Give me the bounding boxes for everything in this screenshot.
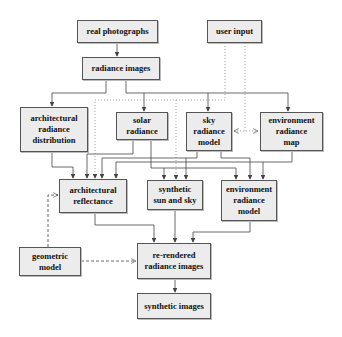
- node-environment-radiance-map: environment radiance map: [260, 112, 323, 151]
- node-environment-radiance-model: environment radiance model: [221, 180, 277, 221]
- node-architectural-reflectance: architectural reflectance: [59, 179, 127, 213]
- node-synthetic-images: synthetic images: [137, 293, 211, 319]
- node-user-input: user input: [207, 20, 262, 43]
- flow-diagram: real photographs user input radiance ima…: [0, 0, 342, 337]
- node-sky-radiance-model: sky radiance model: [186, 112, 232, 151]
- node-geometric-model: geometric model: [19, 247, 81, 276]
- diagram-edges: [0, 0, 342, 337]
- node-radiance-images: radiance images: [82, 57, 160, 80]
- node-synthetic-sun-and-sky: synthetic sun and sky: [147, 180, 203, 210]
- node-real-photographs: real photographs: [77, 20, 158, 43]
- node-re-rendered-radiance-images: re-rendered radiance images: [137, 243, 211, 279]
- node-architectural-radiance-distribution: architectural radiance distribution: [20, 107, 88, 152]
- node-solar-radiance: solar radiance: [116, 112, 168, 140]
